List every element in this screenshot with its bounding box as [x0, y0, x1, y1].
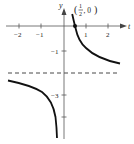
- tick-label-y-neg3: −3: [51, 92, 59, 100]
- point-label-denominator: 2: [79, 11, 82, 17]
- curve-left-branch: [8, 81, 57, 139]
- tick-label-x-neg1: −1: [36, 31, 44, 39]
- point-label-numerator: 1: [79, 3, 82, 9]
- graph-svg: t y −2 −1 1 2 −1 −3 ( 1 2 , 0 ): [0, 0, 134, 144]
- curve-right-branch: [72, 14, 120, 64]
- tick-label-x-1: 1: [84, 31, 88, 39]
- tick-label-x-neg2: −2: [14, 31, 22, 39]
- point-marker: [73, 24, 77, 28]
- y-axis-label: y: [58, 1, 63, 10]
- point-label: ( 1 2 , 0 ): [74, 3, 97, 17]
- tick-label-y-neg1: −1: [51, 48, 59, 56]
- svg-text:(: (: [74, 4, 78, 16]
- tick-label-x-2: 2: [106, 31, 110, 39]
- x-axis-arrow-icon: [120, 24, 127, 29]
- function-graph: t y −2 −1 1 2 −1 −3 ( 1 2 , 0 ): [0, 0, 134, 144]
- point-label-rest: , 0: [84, 6, 92, 15]
- svg-text:): ): [94, 4, 97, 16]
- x-axis-label: t: [128, 22, 131, 31]
